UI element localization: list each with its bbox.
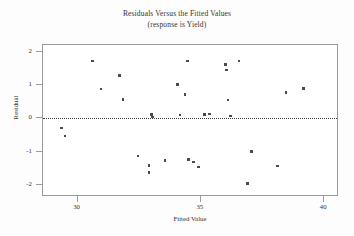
data-point — [184, 93, 187, 96]
x-axis-tick — [77, 196, 78, 202]
data-point — [285, 91, 288, 94]
data-point — [197, 166, 200, 169]
chart-title-block: Residuals Versus the Fitted Values (resp… — [0, 8, 354, 30]
data-point — [276, 165, 279, 168]
plot-frame — [42, 44, 338, 196]
data-point — [227, 99, 230, 102]
data-point — [224, 63, 227, 66]
data-point — [187, 158, 190, 161]
data-point — [176, 83, 179, 86]
chart-title: Residuals Versus the Fitted Values — [0, 8, 354, 19]
y-axis-tick — [36, 117, 42, 118]
data-point — [208, 113, 211, 116]
data-point — [148, 164, 151, 167]
x-axis-title: Fitted Value — [42, 215, 338, 222]
chart-subtitle: (response is Yield) — [0, 19, 354, 30]
data-point — [203, 113, 206, 116]
zero-reference-line — [43, 118, 337, 119]
data-point — [122, 98, 125, 101]
data-point — [91, 60, 94, 63]
data-point — [179, 114, 182, 117]
x-axis-tick-label: 40 — [308, 203, 338, 210]
data-point — [302, 87, 305, 90]
data-point — [246, 182, 249, 185]
y-axis-tick — [36, 151, 42, 152]
data-point — [250, 150, 253, 153]
data-point — [229, 115, 232, 118]
data-point — [60, 127, 63, 130]
y-axis-tick — [36, 184, 42, 185]
x-axis-tick-label: 35 — [185, 203, 215, 210]
data-point — [151, 116, 154, 119]
data-point — [164, 159, 167, 162]
residual-plot-screenshot: Residuals Versus the Fitted Values (resp… — [0, 0, 354, 236]
data-point — [225, 69, 228, 72]
data-point — [186, 60, 189, 63]
data-point — [148, 171, 151, 174]
data-point — [137, 155, 140, 158]
x-axis-tick-label: 30 — [62, 203, 92, 210]
y-axis-tick-label: 2 — [0, 47, 32, 54]
plot-area — [43, 45, 337, 195]
data-point — [64, 135, 67, 138]
y-axis-tick-label: -2 — [0, 180, 32, 187]
data-point — [118, 74, 121, 77]
y-axis-tick — [36, 51, 42, 52]
x-axis-tick — [323, 196, 324, 202]
data-point — [238, 60, 241, 63]
x-axis-tick — [200, 196, 201, 202]
y-axis-tick-label: 1 — [0, 80, 32, 87]
y-axis-tick-label: 0 — [0, 113, 32, 120]
data-point — [100, 88, 103, 91]
data-point — [192, 161, 195, 164]
y-axis-tick — [36, 84, 42, 85]
y-axis-tick-label: -1 — [0, 147, 32, 154]
